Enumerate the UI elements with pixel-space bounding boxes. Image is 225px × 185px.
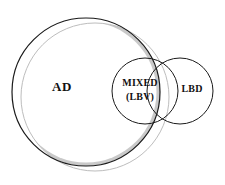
ad-label: AD — [52, 79, 72, 94]
mixed-label-line1: MIXED — [122, 77, 157, 88]
venn-diagram-container: AD MIXED (LBV) LBD — [0, 0, 225, 185]
mixed-label-line2: (LBV) — [126, 91, 154, 103]
lbd-label: LBD — [181, 83, 202, 94]
venn-diagram-svg: AD MIXED (LBV) LBD — [0, 0, 225, 185]
